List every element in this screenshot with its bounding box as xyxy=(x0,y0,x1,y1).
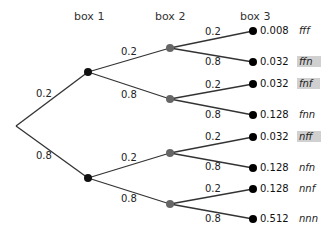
leaf-probability: 0.032 xyxy=(260,78,289,89)
probability-tree xyxy=(0,0,329,241)
leaf-probability: 0.512 xyxy=(260,213,289,224)
edge-label: 0.2 xyxy=(205,183,221,194)
edge-label: 0.8 xyxy=(205,161,221,172)
leaf-outcome-highlighted: fnf xyxy=(297,78,320,89)
leaf-outcome-highlighted: nff xyxy=(297,131,321,142)
leaf-probability: 0.008 xyxy=(260,25,289,36)
header-box1: box 1 xyxy=(74,10,104,23)
edge-label: 0.8 xyxy=(121,193,137,204)
edge-label: 0.8 xyxy=(36,150,52,161)
leaf-probability: 0.128 xyxy=(260,109,289,120)
edge-label: 0.8 xyxy=(205,109,221,120)
box1-nodes xyxy=(84,68,92,182)
leaf-outcome: nfn xyxy=(297,162,317,173)
edge-label: 0.2 xyxy=(121,152,137,163)
leaf-outcome: nnn xyxy=(297,213,320,224)
edge-label: 0.8 xyxy=(121,89,137,100)
leaf-nodes xyxy=(249,27,257,223)
leaf-outcome-highlighted: ffn xyxy=(297,56,321,67)
edge-label: 0.2 xyxy=(205,79,221,90)
edge-label: 0.2 xyxy=(205,26,221,37)
leaf-outcome: nnf xyxy=(297,183,317,194)
edge-label: 0.2 xyxy=(121,46,137,57)
edge-label: 0.2 xyxy=(36,88,52,99)
leaf-probability: 0.128 xyxy=(260,183,289,194)
leaf-probability: 0.128 xyxy=(260,162,289,173)
leaf-probability: 0.032 xyxy=(260,131,289,142)
header-box3: box 3 xyxy=(240,10,270,23)
leaf-outcome: fff xyxy=(297,25,312,36)
edge-label: 0.8 xyxy=(205,213,221,224)
leaf-outcome: fnn xyxy=(297,109,317,120)
header-box2: box 2 xyxy=(155,10,185,23)
edge-label: 0.8 xyxy=(205,56,221,67)
edge-label: 0.2 xyxy=(205,131,221,142)
box2-nodes xyxy=(166,44,174,208)
leaf-probability: 0.032 xyxy=(260,56,289,67)
